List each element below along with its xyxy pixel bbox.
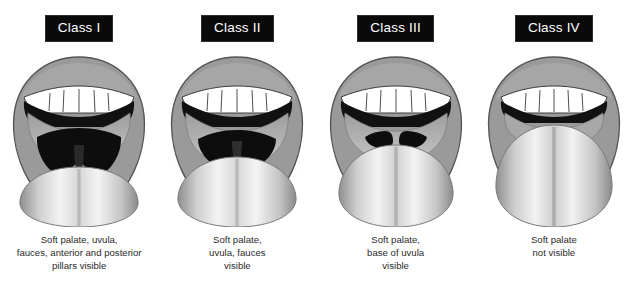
mallampati-figure: Class I bbox=[0, 0, 633, 301]
caption-class-4: Soft palate not visible bbox=[478, 233, 630, 259]
class-label-2: Class II bbox=[201, 15, 274, 42]
caption-line: uvula, fauces bbox=[161, 246, 313, 259]
caption-line: Soft palate bbox=[478, 233, 630, 246]
panel-class-2: Class II bbox=[158, 0, 316, 301]
mouth-illustration-class-1 bbox=[4, 49, 154, 227]
caption-line: fauces, anterior and posterior bbox=[3, 246, 155, 259]
caption-line: visible bbox=[161, 259, 313, 272]
class-label-4: Class IV bbox=[515, 15, 593, 42]
mouth-illustration-class-2 bbox=[162, 49, 312, 227]
caption-line: visible bbox=[320, 259, 472, 272]
caption-class-3: Soft palate, base of uvula visible bbox=[320, 233, 472, 273]
panel-class-3: Class III bbox=[317, 0, 475, 301]
panel-class-4: Class IV bbox=[475, 0, 633, 301]
caption-class-2: Soft palate, uvula, fauces visible bbox=[161, 233, 313, 273]
class-label-3: Class III bbox=[357, 15, 434, 42]
panel-row: Class I bbox=[0, 0, 633, 301]
caption-line: pillars visible bbox=[3, 259, 155, 272]
caption-line: not visible bbox=[478, 246, 630, 259]
caption-line: Soft palate, bbox=[161, 233, 313, 246]
panel-class-1: Class I bbox=[0, 0, 158, 301]
class-label-1: Class I bbox=[45, 15, 114, 42]
mouth-illustration-class-4 bbox=[479, 49, 629, 227]
mouth-illustration-class-3 bbox=[321, 49, 471, 227]
caption-class-1: Soft palate, uvula, fauces, anterior and… bbox=[3, 233, 155, 273]
caption-line: Soft palate, uvula, bbox=[3, 233, 155, 246]
caption-line: base of uvula bbox=[320, 246, 472, 259]
caption-line: Soft palate, bbox=[320, 233, 472, 246]
